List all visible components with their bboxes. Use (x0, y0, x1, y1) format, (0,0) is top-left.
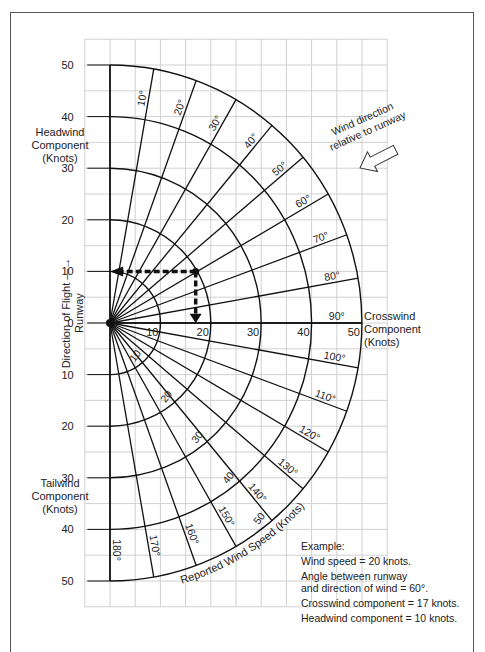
angle-label: 180° (111, 539, 123, 561)
x-tick-label: 40 (297, 326, 309, 338)
angle-label-group: 70° (311, 229, 330, 246)
tailwind-axis-label: Tailwind Component (Knots) (20, 477, 100, 516)
example-wind-speed: Wind speed = 20 knots. (301, 555, 459, 567)
x-tick-label: 20 (197, 326, 209, 338)
angle-label-group: 30° (206, 113, 224, 133)
angle-label: 10° (134, 89, 149, 107)
angle-label: 80° (323, 268, 341, 283)
headwind-axis-label: Headwind Component (Knots) (20, 126, 100, 165)
runway-label-line1: Direction of Flight —→ (60, 238, 73, 388)
crosswind-arrowhead (190, 314, 202, 323)
angle-label: 110° (314, 387, 338, 405)
angle-label-group: 110° (314, 387, 338, 405)
angle-label-group: 180° (111, 539, 123, 561)
y-tick-label: 40 (61, 111, 73, 123)
example-crosswind: Crosswind component = 17 knots. (301, 597, 459, 609)
example-angle: Angle between runway and direction of wi… (301, 570, 459, 594)
angle-label-group: 80° (323, 268, 341, 283)
angle-label-group: 90° (329, 310, 345, 322)
angle-label: 140° (246, 480, 269, 504)
y-tick-label: 50 (61, 575, 73, 587)
example-title: Example: (301, 540, 459, 552)
angle-label-group: 10° (134, 89, 149, 107)
angle-label: 90° (329, 310, 345, 322)
runway-label-line2: Runway (73, 238, 86, 388)
example-angle-line1: Angle between runway (301, 570, 459, 582)
angle-label-group: 40° (241, 131, 260, 151)
runway-direction-label: Direction of Flight —→ Runway (60, 238, 86, 388)
angle-label: 130° (276, 455, 300, 478)
angle-label: 40° (241, 131, 260, 151)
y-tick-label: 40 (61, 523, 73, 535)
speed-label-group: 30 (189, 428, 206, 445)
example-box: Example: Wind speed = 20 knots. Angle be… (301, 540, 459, 627)
y-tick-label: 20 (61, 420, 73, 432)
x-tick-label: 30 (247, 326, 259, 338)
example-point (192, 268, 199, 275)
x-tick-label: 10 (146, 326, 158, 338)
headwind-arrowhead (110, 266, 123, 276)
speed-label-group: 40 (220, 469, 237, 486)
crosswind-axis-label: Crosswind Component (Knots) (364, 310, 444, 349)
example-angle-line2: and direction of wind = 60°. (301, 582, 459, 594)
speed-arc-label: 30 (189, 428, 206, 445)
angle-label: 70° (311, 229, 330, 246)
y-tick-label: 50 (61, 59, 73, 71)
x-tick-label: 50 (348, 326, 360, 338)
example-headwind: Headwind component = 10 knots. (301, 612, 459, 624)
angle-label-group: 130° (276, 455, 300, 478)
angle-label: 30° (206, 113, 224, 133)
origin-hub (106, 319, 114, 327)
speed-arc-label: 40 (220, 469, 237, 486)
angle-label-group: 140° (246, 480, 269, 504)
y-tick-label: 20 (61, 214, 73, 226)
